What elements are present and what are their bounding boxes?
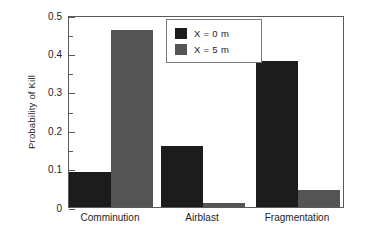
- chart-figure: Probability of Kill 00.10.20.30.40.5 Com…: [0, 0, 366, 240]
- legend-item: X = 5 m: [175, 41, 261, 57]
- legend-swatch-series-1: [175, 44, 187, 55]
- y-tick-minor: [69, 113, 73, 114]
- y-tick-major: [69, 17, 75, 18]
- y-tick-major: [69, 209, 75, 210]
- bar: [256, 61, 298, 207]
- y-tick-label: 0.1: [24, 164, 62, 175]
- y-tick-minor: [69, 151, 73, 152]
- bar: [203, 203, 245, 207]
- legend-swatch-series-0: [175, 28, 187, 39]
- x-axis-tick-labels: ComminutionAirblastFragmentation: [68, 212, 344, 232]
- bar: [111, 30, 153, 207]
- y-tick-major: [69, 132, 75, 133]
- y-tick-minor: [69, 36, 73, 37]
- bar: [161, 146, 203, 207]
- legend-label-series-0: X = 0 m: [194, 28, 229, 39]
- bar: [69, 172, 111, 207]
- y-tick-major: [69, 170, 75, 171]
- legend-item: X = 0 m: [175, 25, 261, 41]
- x-tick-label: Fragmentation: [237, 212, 357, 224]
- y-tick-label: 0.4: [24, 49, 62, 60]
- y-tick-label: 0.2: [24, 126, 62, 137]
- legend-label-series-1: X = 5 m: [194, 44, 229, 55]
- y-tick-major: [69, 55, 75, 56]
- y-tick-label: 0.5: [24, 11, 62, 22]
- y-tick-minor: [69, 74, 73, 75]
- chart-legend: X = 0 m X = 5 m: [166, 19, 262, 63]
- bar: [298, 190, 340, 207]
- y-tick-label: 0.3: [24, 87, 62, 98]
- y-tick-major: [69, 93, 75, 94]
